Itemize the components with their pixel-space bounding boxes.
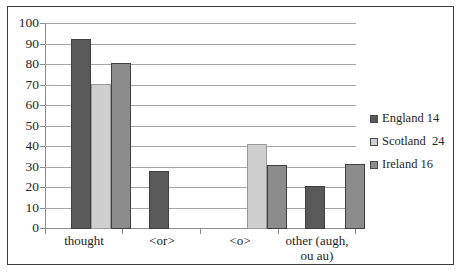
bar-england-other bbox=[305, 186, 325, 229]
plot-area bbox=[45, 23, 356, 229]
bar-scotland-thought bbox=[91, 84, 111, 229]
gridline-90 bbox=[45, 44, 356, 45]
gridline-80 bbox=[45, 64, 356, 65]
x-axis-label-line: <or> bbox=[122, 233, 202, 248]
x-axis-label-thought: thought bbox=[44, 233, 124, 248]
bar-ireland-o bbox=[267, 165, 287, 229]
y-axis-tick-label: 60 bbox=[5, 98, 39, 112]
y-axis-tick-label: 80 bbox=[5, 57, 39, 71]
legend-label-scotland: Scotland 24 bbox=[382, 135, 445, 148]
y-axis-tick-label: 10 bbox=[5, 201, 39, 215]
x-axis-label-line: other (augh, bbox=[277, 233, 357, 248]
chart-frame: 100 90 80 70 60 50 40 30 20 10 0 bbox=[7, 6, 454, 265]
y-axis-tick-label: 90 bbox=[5, 37, 39, 51]
y-axis-tick-label: 100 bbox=[5, 16, 39, 30]
bar-england-or bbox=[149, 171, 169, 229]
y-axis-tick-label: 0 bbox=[5, 221, 39, 235]
y-axis-labels: 100 90 80 70 60 50 40 30 20 10 0 bbox=[8, 23, 39, 229]
bar-ireland-other bbox=[345, 164, 365, 229]
x-axis-labels: thought <or> <o> other (augh, ou au) bbox=[45, 233, 356, 273]
x-axis-label-o: <o> bbox=[200, 233, 280, 248]
legend-swatch-ireland-icon bbox=[370, 161, 378, 169]
legend-swatch-scotland-icon bbox=[370, 138, 378, 146]
legend-swatch-england-icon bbox=[370, 115, 378, 123]
chart-legend: England 14 Scotland 24 Ireland 16 bbox=[370, 107, 456, 176]
legend-item-scotland: Scotland 24 bbox=[370, 130, 456, 153]
bar-england-thought bbox=[71, 39, 91, 229]
x-axis-label-or: <or> bbox=[122, 233, 202, 248]
y-axis-tick-label: 30 bbox=[5, 160, 39, 174]
x-axis-label-line: ou au) bbox=[277, 248, 357, 263]
gridline-100 bbox=[45, 23, 356, 24]
y-axis-tick-label: 20 bbox=[5, 180, 39, 194]
x-axis-label-line: thought bbox=[44, 233, 124, 248]
legend-label-england: England 14 bbox=[382, 112, 439, 125]
y-axis-tick-label: 70 bbox=[5, 78, 39, 92]
x-axis-label-other: other (augh, ou au) bbox=[277, 233, 357, 263]
legend-item-england: England 14 bbox=[370, 107, 456, 130]
y-axis-tick-label: 50 bbox=[5, 119, 39, 133]
legend-label-ireland: Ireland 16 bbox=[382, 158, 433, 171]
bar-scotland-o bbox=[247, 144, 267, 229]
legend-item-ireland: Ireland 16 bbox=[370, 153, 456, 176]
x-axis-label-line: <o> bbox=[200, 233, 280, 248]
bar-ireland-thought bbox=[111, 63, 131, 229]
y-axis-tick-label: 40 bbox=[5, 139, 39, 153]
